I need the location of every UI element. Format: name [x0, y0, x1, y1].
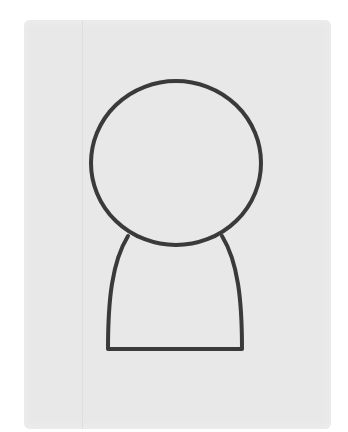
body-outline — [108, 236, 242, 349]
person-silhouette-icon — [0, 0, 348, 432]
head-outline — [91, 81, 261, 245]
